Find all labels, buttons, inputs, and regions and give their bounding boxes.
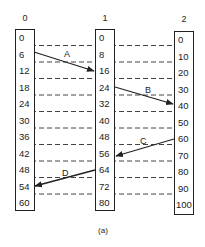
cell: 48 (96, 129, 114, 146)
cell: 70 (175, 148, 193, 165)
cell: 64 (96, 162, 114, 179)
cell: 12 (16, 63, 34, 80)
cell: 24 (96, 80, 114, 97)
arrow-c-label: C (140, 136, 147, 146)
cell: 6 (16, 47, 34, 64)
cell: 24 (16, 96, 34, 113)
cell: 30 (175, 82, 193, 99)
cell: 32 (96, 96, 114, 113)
cell: 16 (96, 63, 114, 80)
cell: 90 (175, 181, 193, 198)
cell: 40 (96, 113, 114, 130)
cell: 20 (175, 65, 193, 82)
cell: 60 (16, 195, 34, 212)
cell: 54 (16, 179, 34, 196)
cell: 10 (175, 49, 193, 66)
arrow-a-label: A (64, 49, 70, 59)
cell: 72 (96, 179, 114, 196)
cell: 50 (175, 115, 193, 132)
cell: 0 (16, 30, 34, 47)
arrow-b-label: B (145, 85, 151, 95)
column-0-box: 0 6 12 18 24 30 36 42 48 54 60 (15, 29, 35, 211)
arrow-d-label: D (62, 168, 69, 178)
cell: 8 (96, 47, 114, 64)
column-2-box: 0 10 20 30 40 50 60 70 80 90 100 (174, 31, 194, 215)
figure-caption: (a) (83, 226, 123, 235)
column-1-box: 0 8 16 24 32 40 48 56 64 72 80 (95, 29, 115, 211)
cell: 48 (16, 162, 34, 179)
cell: 18 (16, 80, 34, 97)
cell: 40 (175, 98, 193, 115)
cell: 80 (96, 195, 114, 212)
cell: 0 (96, 30, 114, 47)
cell: 30 (16, 113, 34, 130)
cell: 80 (175, 164, 193, 181)
cell: 100 (175, 197, 193, 214)
cell: 0 (175, 32, 193, 49)
cell: 36 (16, 129, 34, 146)
cell: 42 (16, 146, 34, 163)
cell: 60 (175, 131, 193, 148)
cell: 56 (96, 146, 114, 163)
